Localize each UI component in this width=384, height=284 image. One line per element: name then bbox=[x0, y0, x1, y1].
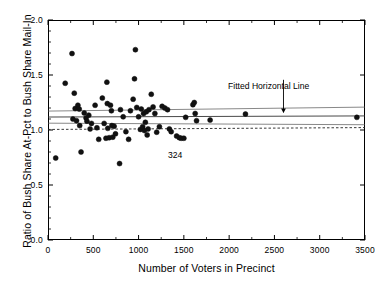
plot-layer bbox=[0, 0, 384, 284]
x-tick-label: 0 bbox=[28, 245, 68, 255]
data-points bbox=[53, 47, 359, 166]
x-tick-label: 3500 bbox=[345, 245, 384, 255]
x-tick-label: 3000 bbox=[300, 245, 340, 255]
x-tick-label: 2500 bbox=[254, 245, 294, 255]
x-tick-label: 1000 bbox=[119, 245, 159, 255]
point-324-annotation-label: 324 bbox=[168, 150, 182, 160]
x-axis-title: Number of Voters in Precinct bbox=[48, 262, 365, 274]
y-axis-title: Ratio of Bush Share At-Pct to Bush Share… bbox=[21, 11, 33, 251]
scatter-plot-figure: 0500100015002000250030003500 0.00.51.01.… bbox=[0, 0, 384, 284]
fitted-line-annotation-label: Fitted Horizontal Line bbox=[228, 81, 309, 91]
x-tick-label: 2000 bbox=[209, 245, 249, 255]
x-tick-label: 500 bbox=[73, 245, 113, 255]
x-tick-label: 1500 bbox=[164, 245, 204, 255]
